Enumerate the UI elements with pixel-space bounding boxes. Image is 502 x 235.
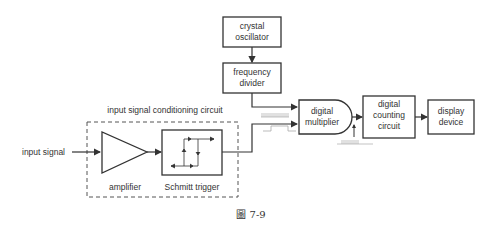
display-device-label-1: display [438, 106, 465, 116]
hysteresis-icon [171, 137, 214, 168]
display-device-block: display device [428, 100, 474, 134]
input-signal-label: input signal [22, 147, 65, 157]
crystal-oscillator-label-1: crystal [240, 21, 265, 31]
crystal-oscillator-label-2: oscillator [235, 32, 269, 42]
digital-multiplier-label-2: multiplier [305, 117, 339, 127]
schmitt-trigger-block: Schmitt trigger [162, 130, 222, 192]
frequency-divider-label-2: divider [239, 78, 264, 88]
figure-caption: 圖 7-9 [236, 209, 265, 220]
pulse-train-waveform-output [337, 140, 373, 144]
frequency-divider-label-1: frequency [233, 67, 271, 77]
schmitt-trigger-label: Schmitt trigger [165, 182, 220, 192]
group-label: input signal conditioning circuit [107, 105, 223, 115]
counting-circuit-label-2: counting [373, 110, 405, 120]
amplifier-block: amplifier [102, 132, 147, 192]
gate-waveform [263, 126, 296, 131]
display-device-label-2: device [439, 117, 464, 127]
counting-circuit-label-1: digital [378, 99, 400, 109]
counting-circuit-label-3: circuit [378, 121, 401, 131]
amplifier-label: amplifier [109, 182, 141, 192]
digital-multiplier-label-1: digital [311, 106, 333, 116]
arrow-trigger-to-multiplier [222, 124, 297, 152]
block-diagram: crystal oscillator frequency divider inp… [0, 0, 502, 235]
pulse-train-waveform-upper [261, 113, 289, 117]
crystal-oscillator-block: crystal oscillator [223, 17, 281, 47]
frequency-divider-block: frequency divider [223, 63, 281, 93]
digital-multiplier-block: digital multiplier [299, 100, 352, 134]
digital-counting-circuit-block: digital counting circuit [363, 96, 415, 138]
arrow-divider-to-multiplier [252, 93, 297, 107]
